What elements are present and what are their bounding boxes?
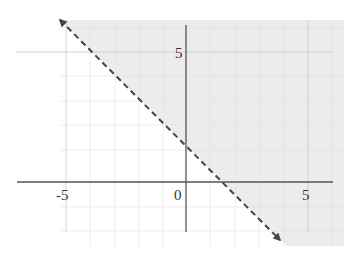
x-tick-label-0: 0	[174, 187, 182, 203]
x-tick-label-5: 5	[302, 187, 310, 203]
shaded-region	[60, 20, 344, 246]
y-tick-label-5: 5	[175, 45, 183, 61]
inequality-graph: -5 0 5 5	[0, 0, 356, 264]
x-tick-label-neg5: -5	[56, 187, 69, 203]
